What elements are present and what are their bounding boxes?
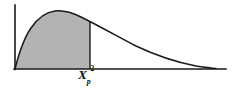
- chi-square-density-figure: Xp2: [0, 0, 239, 91]
- critical-value-subscript: p: [87, 77, 91, 86]
- critical-value-label: Xp2: [78, 68, 95, 85]
- plot-canvas: [0, 0, 239, 91]
- critical-value-base-symbol: X: [78, 67, 87, 82]
- shaded-probability-region: [15, 11, 90, 69]
- critical-value-superscript: 2: [90, 64, 94, 73]
